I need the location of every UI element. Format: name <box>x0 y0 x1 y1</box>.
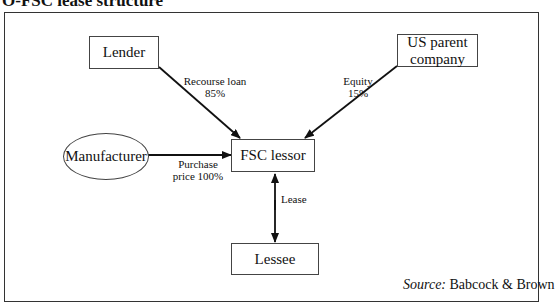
edge-label-lease-text: Lease <box>281 193 307 205</box>
node-us-parent-company: US parent company <box>397 34 478 67</box>
edge-label-recourse-loan: Recourse loan 85% <box>180 75 250 99</box>
edge-label-lease: Lease <box>281 193 307 205</box>
node-manufacturer: Manufacturer <box>63 133 149 180</box>
node-lessee: Lessee <box>231 243 319 275</box>
node-us-parent-line2: company <box>410 51 465 67</box>
node-us-parent-line1: US parent <box>407 34 467 50</box>
edge-label-equity-line2: 15% <box>348 87 368 99</box>
edge-label-recourse-loan-line2: 85% <box>205 87 225 99</box>
source-prefix: Source: <box>403 277 446 292</box>
edge-label-equity: Equity 15% <box>338 75 378 99</box>
edge-label-purchase-line2: price 100% <box>173 170 223 182</box>
node-us-parent-label: US parent company <box>407 34 467 68</box>
node-lender: Lender <box>89 36 159 69</box>
node-lessee-label: Lessee <box>255 251 296 268</box>
source-text: Babcock & Brown <box>446 277 554 292</box>
edge-label-purchase-line1: Purchase <box>178 158 218 170</box>
node-manufacturer-label: Manufacturer <box>65 148 147 165</box>
edge-label-purchase-price: Purchase price 100% <box>168 158 228 182</box>
edge-label-recourse-loan-line1: Recourse loan <box>184 75 247 87</box>
node-fsc-lessor: FSC lessor <box>231 139 315 172</box>
node-lender-label: Lender <box>103 44 145 61</box>
edge-label-equity-line1: Equity <box>343 75 372 87</box>
source-note: Source: Babcock & Brown <box>403 277 555 293</box>
node-fsc-lessor-label: FSC lessor <box>240 147 305 164</box>
